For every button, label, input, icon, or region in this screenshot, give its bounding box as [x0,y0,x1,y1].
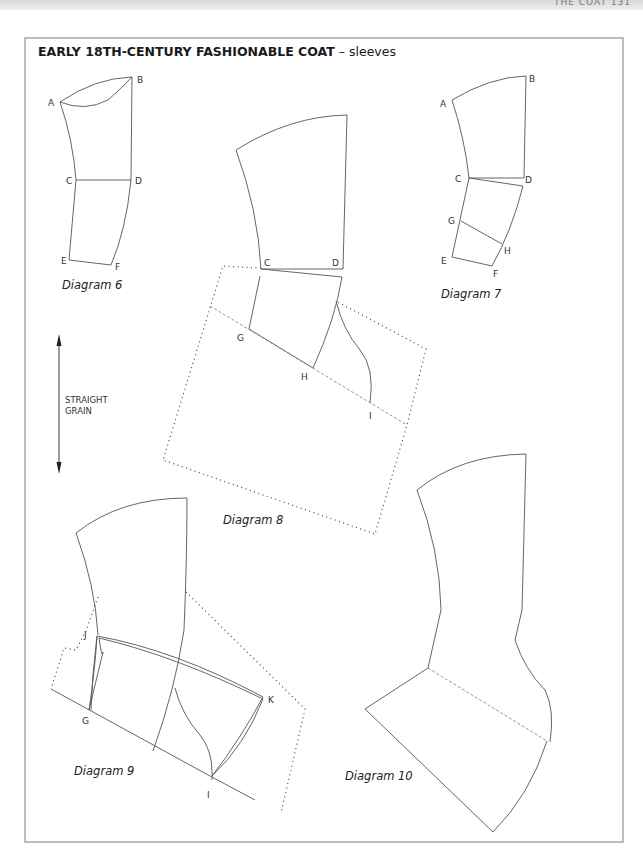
d6-label-c: C [66,176,72,186]
d9-label-i: I [207,790,210,800]
elbow-line-dashed [428,668,547,741]
diagram-8-cutting-rectangle [163,266,426,534]
d10-caption: Diagram 10 [345,769,413,783]
front-seam-upper [131,77,132,180]
hindarm-curve [336,301,371,403]
grain-label-line1: STRAIGHT [65,395,108,405]
d8-label-c: C [264,258,270,268]
diagram-7 [452,76,526,266]
front-seam [153,498,187,751]
diagram-6 [60,77,132,265]
back-seam-lower [69,180,76,260]
back-seam-upper [76,533,98,635]
d6-label-f: F [115,262,120,272]
line-gi-base [51,689,210,776]
sleeve-head-curve [76,498,187,533]
elbow-dart-line [469,178,523,186]
d6-label-a: A [48,98,55,108]
straight-grain-arrow [57,334,62,474]
hindarm-curve [175,688,212,780]
grain-label-line2: GRAIN [65,406,92,416]
d7-label-c: C [455,174,461,184]
back-seam-upper [452,100,469,178]
line-ki-1 [212,697,263,776]
sleeve-head-inner-curve [60,77,132,107]
d8-label-i: I [369,411,372,421]
front-seam-lower [111,180,131,265]
d8-caption: Diagram 8 [223,513,283,527]
d7-label-d: D [525,175,532,185]
d7-label-h: H [504,246,511,256]
front-seam-upper [343,115,347,269]
d9-label-g: G [82,716,89,726]
d7-label-g: G [448,216,455,226]
sleeve-head-curve [417,454,526,490]
d9-label-j: J [83,630,87,640]
d8-label-h: H [301,372,308,382]
d6-caption: Diagram 6 [62,278,122,292]
line-i-end [210,776,255,800]
d7-caption: Diagram 7 [441,287,502,301]
diagram-9 [51,498,263,800]
back-seam-lower [249,276,260,329]
line-extension-dashed [210,306,407,425]
front-seam-lower [313,277,342,368]
sleeve-head-curve [236,115,347,150]
lower-back-edge [365,668,428,709]
sleeve-head-outer-curve [60,77,132,102]
d9-label-k: K [268,695,275,705]
pattern-drawing: A B C D E F Diagram 6 A B C D G H E F Di… [0,0,643,865]
d8-label-g: G [237,333,244,343]
d7-label-a: A [440,99,447,109]
cuff-line-ef [69,260,111,265]
d6-label-b: B [137,75,143,85]
back-seam [417,490,441,668]
cuff-line-ef [452,257,492,266]
d9-caption: Diagram 9 [74,764,134,778]
back-seam-upper [60,102,76,180]
lower-front-edge [493,741,547,832]
back-seam-upper [236,150,261,269]
diagram-8 [210,115,407,425]
d6-label-e: E [61,256,67,266]
sleeve-head-curve [452,76,526,100]
d7-label-b: B [529,74,535,84]
line-jk-upper [97,636,263,697]
front-seam-upper [524,76,526,178]
front-seam [515,454,552,742]
line-gh [461,221,502,244]
d7-label-e: E [441,256,447,266]
d8-label-d: D [332,258,339,268]
diagram-9-cutting-outline [51,592,305,813]
elbow-dart-line [261,269,342,277]
d6-label-d: D [135,176,142,186]
d7-label-f: F [493,269,498,279]
